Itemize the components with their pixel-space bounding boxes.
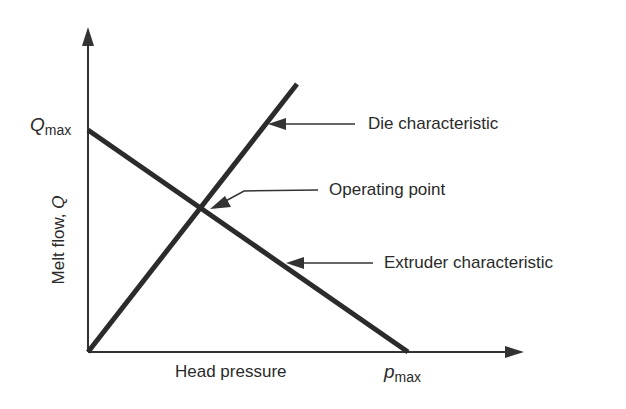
extruder-characteristic-label: Extruder characteristic	[384, 253, 553, 273]
x-axis-arrow-icon	[505, 346, 524, 358]
y-axis-label-text: Melt flow,	[49, 209, 68, 285]
y-axis-label: Melt flow, Q	[49, 196, 69, 285]
p-max-subscript: max	[395, 369, 421, 385]
x-axis-label: Head pressure	[175, 362, 287, 382]
y-axis-symbol: Q	[49, 196, 68, 209]
p-max-symbol: p	[384, 361, 395, 382]
operating-point-arrow-icon	[210, 196, 231, 209]
operating-point-pointer-line	[222, 190, 318, 203]
q-max-subscript: max	[45, 122, 71, 138]
q-max-symbol: Q	[30, 114, 45, 135]
diagram-canvas	[0, 0, 626, 409]
p-max-label: pmax	[384, 361, 421, 383]
extruder-characteristic-line	[88, 130, 408, 352]
q-max-label: Qmax	[30, 114, 71, 136]
die-characteristic-label: Die characteristic	[368, 114, 498, 134]
y-axis-arrow-icon	[82, 27, 94, 46]
operating-point-label: Operating point	[329, 180, 445, 200]
die-characteristic-line	[88, 84, 297, 352]
